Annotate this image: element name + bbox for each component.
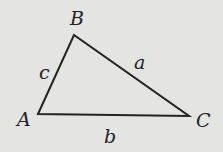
triangle-abc bbox=[38, 35, 189, 116]
vertex-label-a: A bbox=[15, 108, 31, 130]
side-label-c: c bbox=[39, 61, 50, 83]
side-label-a: a bbox=[134, 51, 145, 73]
side-label-b: b bbox=[104, 125, 116, 147]
vertex-label-c: C bbox=[196, 109, 211, 131]
vertex-label-b: B bbox=[69, 7, 84, 29]
triangle-svg: B A C a b c bbox=[0, 0, 223, 152]
triangle-diagram: B A C a b c bbox=[0, 0, 223, 152]
